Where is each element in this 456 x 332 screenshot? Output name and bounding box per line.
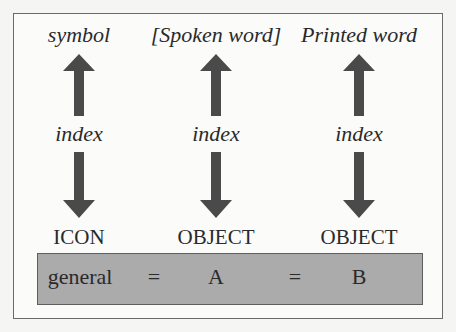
equation-term-a: A [208,264,224,290]
up-arrow-icon [343,54,375,116]
equals-sign-1: = [148,264,160,290]
equals-sign-2: = [289,264,301,290]
up-arrow-icon [200,54,232,116]
down-arrow-icon [200,152,232,218]
equation-term-general: general [48,264,113,290]
up-arrow-icon [63,54,95,116]
down-arrow-icon [63,152,95,218]
equation-term-b: B [352,264,367,290]
down-arrow-icon [343,152,375,218]
